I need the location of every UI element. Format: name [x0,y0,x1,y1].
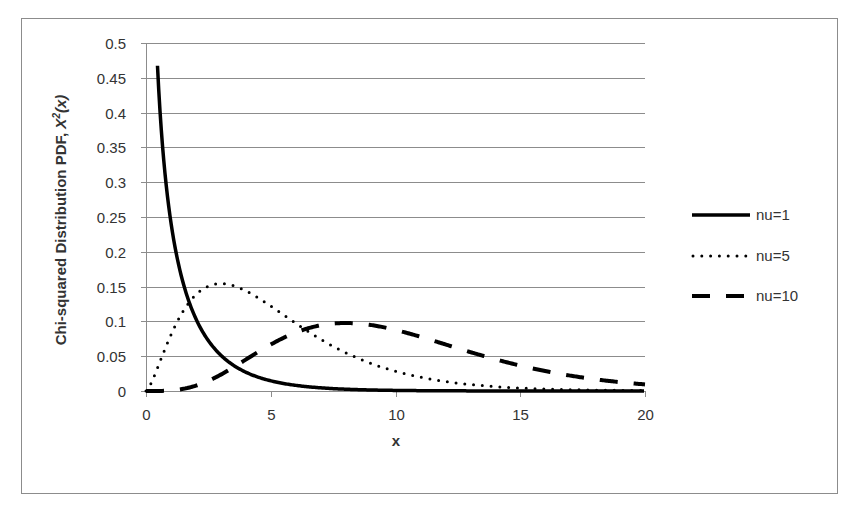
x-tick-label: 10 [388,406,405,423]
y-tick-label: 0.2 [105,244,126,261]
y-axis-title-plain: Chi-squared Distribution PDF, [52,129,69,346]
y-axis-title-italic-tail: (x) [52,95,69,113]
y-tick-label: 0.05 [97,348,126,365]
x-tick-label: 0 [142,406,150,423]
x-tick-label: 5 [267,406,275,423]
chart: 00.050.10.150.20.250.30.350.40.450.5 051… [0,0,856,513]
y-tick-label: 0.45 [97,70,126,87]
y-tick-label: 0 [118,383,126,400]
x-tick-label: 15 [512,406,529,423]
y-tick-label: 0.5 [105,35,126,52]
y-tick-label: 0.4 [105,105,126,122]
y-tick-label: 0.1 [105,313,126,330]
x-axis-title: x [392,432,401,449]
legend-label: nu=10 [756,287,798,304]
legend-label: nu=5 [756,247,790,264]
x-tick-label: 20 [637,406,654,423]
y-tick-label: 0.15 [97,279,126,296]
y-axis-title: Chi-squared Distribution PDF, X2(x) [51,95,69,346]
legend-label: nu=1 [756,206,790,223]
y-tick-label: 0.3 [105,174,126,191]
y-tick-label: 0.25 [97,209,126,226]
y-tick-label: 0.35 [97,139,126,156]
